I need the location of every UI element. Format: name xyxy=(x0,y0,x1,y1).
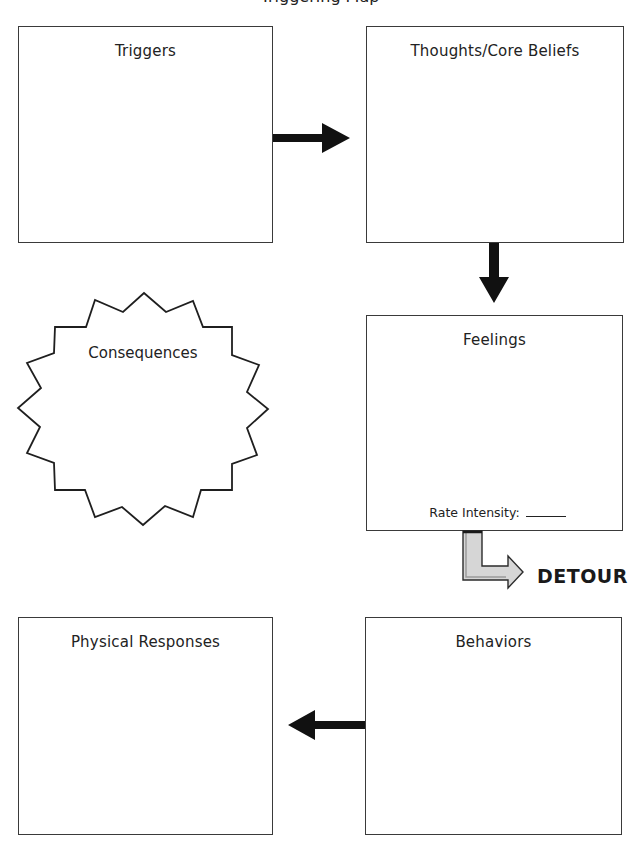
behaviors-label: Behaviors xyxy=(366,633,621,651)
page-title: Triggering Map xyxy=(0,0,640,6)
physical-responses-box[interactable]: Physical Responses xyxy=(18,617,273,835)
consequences-starburst-shape xyxy=(18,293,268,525)
rate-intensity-blank[interactable] xyxy=(526,515,566,517)
triggers-label: Triggers xyxy=(19,42,272,60)
feelings-label: Feelings xyxy=(367,331,622,349)
physical-responses-label: Physical Responses xyxy=(19,633,272,651)
rate-intensity-label: Rate Intensity: xyxy=(429,505,519,520)
behaviors-box[interactable]: Behaviors xyxy=(365,617,622,835)
feelings-box[interactable]: Feelings Rate Intensity: xyxy=(366,315,623,531)
thoughts-core-beliefs-label: Thoughts/Core Beliefs xyxy=(367,42,623,60)
arrow-left-icon xyxy=(288,710,365,740)
detour-label: DETOUR xyxy=(537,565,628,587)
thoughts-core-beliefs-box[interactable]: Thoughts/Core Beliefs xyxy=(366,26,624,243)
rate-intensity-row: Rate Intensity: xyxy=(367,505,622,520)
triggers-box[interactable]: Triggers xyxy=(18,26,273,243)
detour-arrow-icon xyxy=(463,531,523,588)
consequences-label[interactable]: Consequences xyxy=(38,344,248,362)
arrow-right-icon xyxy=(273,123,350,153)
arrow-down-icon xyxy=(479,243,509,303)
